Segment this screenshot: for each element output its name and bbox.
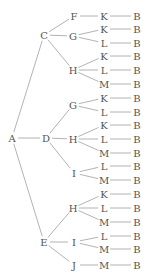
node-B5: B (133, 65, 140, 76)
node-C: C (40, 30, 48, 41)
edge-D-DI (50, 143, 71, 169)
edge-DG-DGL (79, 106, 98, 110)
edge-CG-CGL (79, 37, 98, 41)
edge-D-DH (52, 138, 67, 139)
node-CHL: L (101, 65, 108, 76)
edge-EH-EHM (78, 210, 98, 219)
edge-DH-DHK (78, 127, 98, 136)
node-EJM: M (99, 260, 109, 271)
node-DIM: M (99, 175, 109, 186)
node-CHM: M (99, 79, 109, 90)
node-D: D (42, 133, 50, 144)
edge-A-C (14, 41, 42, 133)
node-DI: I (72, 168, 76, 179)
node-EHM: M (99, 217, 109, 228)
edge-DH-DHM (78, 141, 98, 150)
node-B8: B (133, 107, 140, 118)
node-B1: B (133, 11, 140, 22)
node-EIL: L (101, 231, 108, 242)
node-EH: H (69, 203, 78, 214)
node-B13: B (133, 175, 140, 186)
node-CF: F (71, 11, 78, 22)
node-CG: G (69, 31, 77, 42)
node-B7: B (133, 93, 140, 104)
edge-A-E (14, 144, 42, 237)
node-B15: B (133, 203, 140, 214)
tree-diagram: ACDEFGHGHIHIJKKLKLMKLKLMLMKLMLMMBBBBBBBB… (0, 0, 152, 273)
node-EIM: M (99, 244, 109, 255)
edge-EH-EHK (78, 196, 98, 205)
edge-CG-CGK (79, 30, 98, 34)
edge-CH-CHK (78, 58, 98, 67)
edge-C-CH (48, 40, 69, 66)
edge-EI-EIM (80, 243, 98, 247)
node-B10: B (133, 134, 140, 145)
node-EJ: J (71, 260, 76, 271)
node-DGK: K (100, 93, 108, 104)
edge-E-EJ (49, 246, 69, 262)
edge-DI-DIL (80, 167, 98, 171)
node-DHM: M (99, 148, 109, 159)
node-DGL: L (101, 107, 108, 118)
node-EI: I (72, 237, 76, 248)
node-B11: B (133, 148, 140, 159)
node-DHL: L (101, 134, 108, 145)
node-B16: B (133, 217, 140, 228)
edge-C-CF (49, 19, 69, 32)
node-DG: G (69, 100, 77, 111)
tree-nodes: ACDEFGHGHIHIJKKLKLMKLKLMLMKLMLMMBBBBBBBB… (7, 11, 140, 271)
node-DIL: L (101, 161, 108, 172)
node-B2: B (133, 24, 140, 35)
node-B17: B (133, 231, 140, 242)
node-DH: H (69, 134, 78, 145)
node-A: A (7, 133, 16, 144)
node-B6: B (133, 79, 140, 90)
node-CH: H (69, 65, 78, 76)
node-B12: B (133, 161, 140, 172)
node-B3: B (133, 38, 140, 49)
node-B4: B (133, 51, 140, 62)
node-CGL: L (101, 38, 108, 49)
node-B9: B (133, 120, 140, 131)
node-E: E (40, 237, 47, 248)
edge-E-EH (48, 213, 69, 238)
edge-DG-DGK (79, 99, 98, 103)
node-B18: B (133, 244, 140, 255)
edge-C-CG (50, 35, 67, 36)
edge-DI-DIM (80, 174, 98, 178)
node-EHL: L (101, 203, 108, 214)
node-CGK: K (100, 24, 108, 35)
node-EHK: K (100, 189, 108, 200)
edge-CH-CHM (78, 72, 98, 81)
edge-D-DG (50, 110, 69, 134)
node-CFK: K (100, 11, 108, 22)
node-DHK: K (100, 120, 108, 131)
edge-EI-EIL (80, 237, 98, 241)
node-B14: B (133, 189, 140, 200)
node-B19: B (133, 260, 140, 271)
node-CHK: K (100, 51, 108, 62)
